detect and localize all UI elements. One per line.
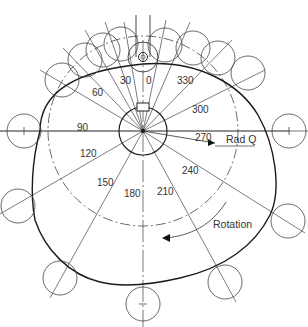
roller-10	[271, 204, 305, 238]
angle-label-0: 0	[146, 75, 152, 86]
keyway	[137, 103, 149, 111]
angle-label-300: 300	[192, 104, 209, 115]
angle-label-90: 90	[77, 122, 89, 133]
angle-label-210: 210	[157, 186, 174, 197]
angle-label-150: 150	[97, 177, 114, 188]
cam-diagram: 0 30 60 90 120 150 180 210 240 270 300 3…	[0, 0, 308, 327]
angle-label-270: 270	[195, 132, 212, 143]
roller-positions	[1, 27, 306, 321]
rotation-label: Rotation	[213, 218, 252, 230]
angle-label-240: 240	[182, 165, 199, 176]
rad-q-label: Rad Q	[226, 133, 256, 145]
roller-14	[1, 189, 35, 223]
roller-2	[68, 43, 102, 77]
roller-center-ticks	[24, 127, 289, 304]
angle-label-180: 180	[124, 188, 141, 199]
angle-labels: 0 30 60 90 120 150 180 210 240 270 300 3…	[77, 75, 212, 199]
roller-8	[231, 56, 265, 90]
radial-lines	[0, 20, 305, 302]
roller-5	[148, 28, 182, 62]
angle-label-330: 330	[177, 75, 194, 86]
roller-6	[176, 31, 210, 65]
roller-1	[45, 63, 79, 97]
angle-label-60: 60	[92, 87, 104, 98]
roller-7	[201, 41, 235, 75]
roller-4	[104, 27, 138, 61]
angle-label-120: 120	[80, 148, 97, 159]
rotation-arrowhead	[162, 234, 170, 242]
roller-13	[43, 261, 77, 295]
angle-label-30: 30	[120, 75, 132, 86]
